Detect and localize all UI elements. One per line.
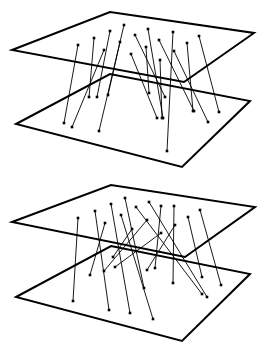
lower-point <box>71 126 74 129</box>
upper-point <box>94 210 97 213</box>
connection-line <box>89 38 94 97</box>
connection-line <box>173 206 174 283</box>
upper-point <box>134 34 137 37</box>
upper-point <box>198 35 201 38</box>
upper-point <box>158 39 161 42</box>
connection-line <box>95 211 109 310</box>
lower-plane <box>16 246 250 341</box>
lower-point <box>152 318 155 321</box>
connection-line <box>97 31 110 97</box>
panel-bottom <box>12 185 255 341</box>
lower-point <box>146 269 149 272</box>
lower-point <box>129 312 132 315</box>
upper-point <box>77 44 80 47</box>
upper-point <box>159 59 162 62</box>
lower-point <box>96 96 99 99</box>
upper-point <box>199 209 202 212</box>
lower-point <box>103 270 106 273</box>
lower-point <box>107 94 110 97</box>
upper-point <box>123 24 126 27</box>
lower-point <box>108 309 111 312</box>
upper-point <box>147 28 150 31</box>
lower-point <box>220 284 223 287</box>
upper-point <box>187 216 190 219</box>
connection-line <box>121 215 153 319</box>
upper-point <box>160 232 163 235</box>
diagram-canvas <box>0 0 268 352</box>
upper-point <box>109 30 112 33</box>
stacked-planes-diagram <box>0 0 268 352</box>
upper-point <box>110 203 113 206</box>
lower-point <box>72 300 75 303</box>
lower-point <box>112 256 115 259</box>
upper-point <box>148 201 151 204</box>
upper-point <box>103 49 106 52</box>
connection-line <box>146 47 149 93</box>
lower-point <box>201 293 204 296</box>
panel-top <box>12 12 254 167</box>
upper-point <box>93 37 96 40</box>
upper-point <box>186 42 189 45</box>
lower-point <box>201 276 204 279</box>
lower-point <box>156 117 159 120</box>
lower-point <box>172 282 175 285</box>
lower-plane <box>16 74 250 167</box>
lower-point <box>114 266 117 269</box>
connection-line <box>159 40 194 111</box>
upper-point <box>131 228 134 231</box>
lower-point <box>98 130 101 133</box>
lower-point <box>206 296 209 299</box>
upper-point <box>104 222 107 225</box>
connection-line <box>200 210 221 285</box>
lower-point <box>164 96 167 99</box>
upper-point <box>160 205 163 208</box>
upper-plane <box>12 185 255 257</box>
lower-point <box>207 121 210 124</box>
lower-point <box>192 110 195 113</box>
lower-point <box>148 92 151 95</box>
upper-point <box>119 41 122 44</box>
connection-line <box>199 36 219 112</box>
connection-line <box>64 45 78 123</box>
lower-point <box>89 274 92 277</box>
lower-point <box>166 150 169 153</box>
upper-point <box>146 219 149 222</box>
upper-point <box>145 46 148 49</box>
upper-point <box>173 205 176 208</box>
lower-point <box>63 122 66 125</box>
lower-point <box>218 111 221 114</box>
upper-point <box>130 53 133 56</box>
lower-point <box>161 117 164 120</box>
connection-line <box>73 218 78 301</box>
upper-point <box>135 206 138 209</box>
connection-line <box>149 202 207 297</box>
upper-point <box>124 197 127 200</box>
upper-point <box>172 31 175 34</box>
upper-point <box>120 214 123 217</box>
connection-line <box>167 32 173 151</box>
upper-plane <box>12 12 254 82</box>
connection-line <box>131 54 157 118</box>
connection-line <box>160 60 162 118</box>
lower-point <box>88 96 91 99</box>
upper-point <box>77 217 80 220</box>
lower-point <box>154 267 157 270</box>
upper-point <box>173 50 176 53</box>
